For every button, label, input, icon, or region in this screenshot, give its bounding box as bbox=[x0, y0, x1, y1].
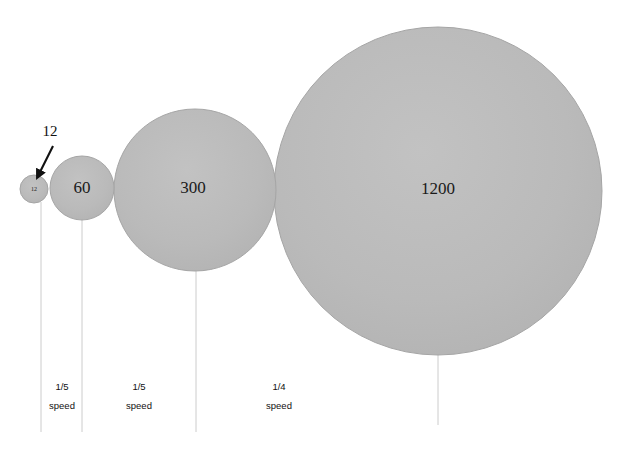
callout-12-label: 12 bbox=[43, 123, 58, 139]
speed-label-3: 1/4 speed bbox=[266, 381, 292, 411]
speed-label-3-line1: 1/4 bbox=[272, 381, 285, 392]
circle-group-12[interactable]: 12 bbox=[20, 175, 48, 203]
speed-label-2-line2: speed bbox=[126, 400, 152, 411]
speed-label-1-line1: 1/5 bbox=[55, 381, 68, 392]
speed-label-1-line2: speed bbox=[49, 400, 75, 411]
circle-group-300[interactable]: 300 bbox=[114, 109, 276, 271]
callout-12: 12 bbox=[38, 123, 58, 177]
diagram-canvas: 1200 300 60 12 12 1/5 speed 1/5 speed bbox=[0, 0, 624, 449]
speed-label-3-line2: speed bbox=[266, 400, 292, 411]
speed-label-2-line1: 1/5 bbox=[132, 381, 145, 392]
scale-comparison-diagram: 1200 300 60 12 12 1/5 speed 1/5 speed bbox=[0, 0, 624, 449]
circle-300-label: 300 bbox=[180, 178, 206, 197]
callout-arrow-icon bbox=[38, 146, 54, 177]
speed-label-1: 1/5 speed bbox=[49, 381, 75, 411]
circle-group-1200[interactable]: 1200 bbox=[274, 27, 602, 355]
circle-12-label: 12 bbox=[31, 186, 37, 192]
circle-60-label: 60 bbox=[74, 178, 91, 197]
speed-label-2: 1/5 speed bbox=[126, 381, 152, 411]
circle-group-60[interactable]: 60 bbox=[50, 156, 114, 220]
circle-1200-label: 1200 bbox=[421, 179, 455, 198]
